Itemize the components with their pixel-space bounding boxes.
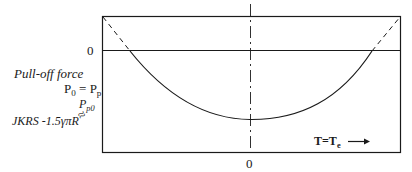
eq-rhs: P bbox=[90, 81, 97, 96]
pulloff-equation: P0 = Pp bbox=[64, 82, 101, 98]
x-title-eq: = bbox=[322, 134, 329, 148]
right-dashed-extension bbox=[372, 17, 400, 51]
x-axis-title: T=Te bbox=[314, 135, 341, 150]
x-title-rhs-sub: e bbox=[337, 141, 341, 150]
x-zero-label: 0 bbox=[246, 157, 253, 170]
left-dashed-extension bbox=[103, 17, 130, 51]
eq-sign: = bbox=[79, 81, 86, 96]
x-arrow-head bbox=[364, 139, 370, 145]
diagram-canvas bbox=[0, 0, 412, 172]
plot-frame bbox=[103, 17, 401, 153]
eq-rhs-sub: p bbox=[97, 88, 102, 98]
y-zero-label: 0 bbox=[87, 44, 94, 57]
eq-lhs-sub: 0 bbox=[71, 88, 76, 98]
jkrs-label: JKRS -1.5γπR bbox=[12, 115, 79, 127]
min-sub: p0 bbox=[86, 104, 94, 113]
y-axis-title: Pull-off force bbox=[14, 67, 83, 80]
x-title-rhs: T bbox=[329, 134, 337, 148]
x-title-lhs: T bbox=[314, 134, 322, 148]
pull-off-force-curve bbox=[130, 51, 372, 120]
